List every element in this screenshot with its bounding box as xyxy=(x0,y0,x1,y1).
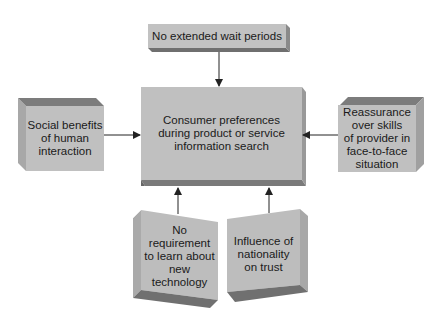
node-bottom-left-label: No requirement to learn about new techno… xyxy=(141,226,218,286)
node-bottom-left-line: new technology xyxy=(141,263,218,289)
node-center-line: information search xyxy=(174,140,269,153)
node-bottom-left-line: requirement xyxy=(149,237,210,250)
node-bottom-right-line: nationality xyxy=(238,248,290,261)
node-bottom-right-line: Influence of xyxy=(234,235,293,248)
node-center-label: Consumer preferences during product or s… xyxy=(141,87,302,180)
node-left-label: Social benefits of human interaction xyxy=(26,106,104,171)
node-bottom-left-line: to learn about xyxy=(144,250,214,263)
node-bottom-right-label: Influence of nationality on trust xyxy=(227,222,300,286)
node-center-line: Consumer preferences xyxy=(163,114,280,127)
node-top-label: No extended wait periods xyxy=(148,24,286,48)
node-left-line: of human xyxy=(41,132,89,145)
node-right-label: Reassurance over skills of provider in f… xyxy=(338,105,416,172)
node-right-line: of provider in xyxy=(344,132,410,145)
node-left-line: interaction xyxy=(38,145,91,158)
node-top-line: No extended wait periods xyxy=(152,30,282,43)
node-bottom-left-line: No xyxy=(172,224,187,237)
node-right-line: Reassurance xyxy=(343,106,411,119)
node-right-line: situation xyxy=(356,158,399,171)
node-center-line: during product or service xyxy=(158,127,285,140)
node-right-line: face-to-face xyxy=(347,145,408,158)
node-right-line: over skills xyxy=(352,119,402,132)
node-bottom-right-line: on trust xyxy=(244,261,282,274)
node-left-line: Social benefits xyxy=(28,119,103,132)
